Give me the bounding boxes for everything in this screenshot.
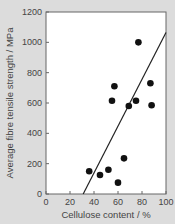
y-tick-labels: 020040060080010001200 [22,7,42,199]
plot-area [46,12,166,194]
data-point [147,80,154,87]
x-tick-label: 60 [113,197,123,207]
y-tick-label: 0 [37,189,42,199]
data-point [126,103,133,110]
x-tick-label: 0 [43,197,48,207]
scatter-chart: 020040060080010001200 020406080100 Cellu… [0,0,175,224]
y-tick-label: 600 [27,98,42,108]
data-point [109,97,116,104]
x-tick-labels: 020406080100 [43,197,173,207]
data-point [133,97,140,104]
x-tick-label: 100 [158,197,173,207]
y-tick-label: 1200 [22,7,42,17]
data-point [97,172,104,179]
y-tick-label: 1000 [22,37,42,47]
y-tick-label: 200 [27,159,42,169]
data-point [135,39,142,46]
x-tick-label: 40 [89,197,99,207]
data-point [86,168,93,175]
y-axis-title: Average fibre tensile strength / MPa [4,27,15,179]
x-axis-title: Cellulose content / % [61,209,151,220]
x-tick-label: 20 [65,197,75,207]
y-tick-label: 800 [27,68,42,78]
data-point [105,166,112,173]
data-point [148,102,155,109]
data-point [115,179,122,186]
data-point [121,155,128,162]
x-tick-label: 80 [137,197,147,207]
y-tick-label: 400 [27,128,42,138]
data-point [111,83,118,90]
